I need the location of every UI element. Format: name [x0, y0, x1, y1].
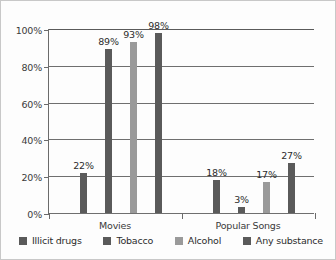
legend-label: Any substance	[256, 235, 323, 246]
category-separator-middle	[182, 213, 183, 219]
bar-movies-alcohol[interactable]: 93%	[130, 42, 137, 213]
bar-value-label: 98%	[148, 20, 169, 31]
gridline-40: 40%	[49, 139, 314, 140]
bar-popular-songs-alcohol[interactable]: 17%	[263, 182, 270, 213]
category-label-popular-songs: Popular Songs	[216, 220, 281, 231]
bar-movies-any-substance[interactable]: 98%	[155, 33, 162, 213]
legend-label: Illicit drugs	[32, 235, 82, 246]
ytick-80	[44, 67, 49, 68]
legend-item-any-substance[interactable]: Any substance	[243, 235, 323, 246]
bar-popular-songs-tobacco[interactable]: 3%	[238, 207, 245, 213]
bar-popular-songs-any-substance[interactable]: 27%	[288, 163, 295, 213]
category-separator-end	[315, 213, 316, 219]
bar-value-label: 89%	[98, 36, 119, 47]
ytick-label-0: 0%	[27, 209, 42, 220]
bar-movies-tobacco[interactable]: 89%	[105, 49, 112, 213]
legend-swatch-icon	[243, 237, 251, 245]
bar-value-label: 18%	[206, 167, 227, 178]
ytick-label-20: 20%	[21, 172, 42, 183]
legend-label: Tobacco	[116, 235, 153, 246]
ytick-100	[44, 30, 49, 31]
ytick-label-100: 100%	[16, 25, 42, 36]
bar-value-label: 22%	[73, 160, 94, 171]
gridline-80: 80%	[49, 66, 314, 67]
legend-item-illicit-drugs[interactable]: Illicit drugs	[19, 235, 82, 246]
chart-figure: 100% 80% 60% 40% 20% 0% 22% 89%	[0, 0, 336, 260]
legend-swatch-icon	[103, 237, 111, 245]
legend-swatch-icon	[175, 237, 183, 245]
chart-legend: Illicit drugs Tobacco Alcohol Any substa…	[19, 235, 323, 246]
ytick-40	[44, 140, 49, 141]
gridline-60: 60%	[49, 103, 314, 104]
legend-label: Alcohol	[188, 235, 221, 246]
bar-popular-songs-illicit-drugs[interactable]: 18%	[213, 180, 220, 213]
gridline-100: 100%	[49, 29, 314, 30]
legend-item-tobacco[interactable]: Tobacco	[103, 235, 153, 246]
ytick-label-40: 40%	[21, 135, 42, 146]
bar-movies-illicit-drugs[interactable]: 22%	[80, 173, 87, 213]
ytick-20	[44, 177, 49, 178]
category-label-movies: Movies	[99, 220, 131, 231]
bar-value-label: 27%	[281, 150, 302, 161]
bar-value-label: 93%	[123, 29, 144, 40]
legend-item-alcohol[interactable]: Alcohol	[175, 235, 221, 246]
category-separator-start	[49, 213, 50, 219]
plot-area: 100% 80% 60% 40% 20% 0% 22% 89%	[48, 29, 314, 214]
bar-value-label: 3%	[234, 194, 249, 205]
ytick-label-80: 80%	[21, 61, 42, 72]
ytick-label-60: 60%	[21, 98, 42, 109]
legend-swatch-icon	[19, 237, 27, 245]
ytick-60	[44, 104, 49, 105]
bar-value-label: 17%	[256, 169, 277, 180]
